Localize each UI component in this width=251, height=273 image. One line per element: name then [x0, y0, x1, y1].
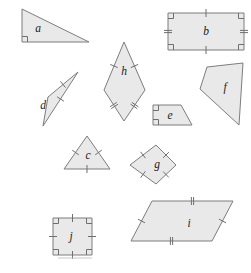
geometry-figure: abcdefghij: [0, 0, 251, 273]
shape-a-outline: [22, 9, 89, 42]
shape-label-e: e: [167, 109, 172, 121]
shape-e: e: [153, 105, 192, 125]
shape-f: f: [200, 63, 243, 125]
shape-label-i: i: [187, 217, 190, 229]
shape-h-outline: [104, 42, 145, 121]
shape-b: b: [164, 9, 248, 54]
shapes-group: abcdefghij: [22, 9, 248, 259]
shape-a: a: [22, 9, 89, 42]
shape-i-outline: [131, 201, 233, 241]
shape-d: d: [40, 72, 78, 126]
shape-h: h: [104, 42, 145, 121]
shape-label-d: d: [40, 99, 46, 111]
shape-label-g: g: [154, 158, 160, 171]
shape-label-b: b: [203, 25, 209, 37]
shape-label-h: h: [121, 65, 127, 77]
shape-g-outline: [130, 145, 176, 184]
shape-j: j: [49, 214, 96, 259]
shape-label-a: a: [35, 22, 41, 34]
shape-f-outline: [200, 63, 243, 125]
shape-g: g: [130, 145, 176, 184]
shape-c: c: [64, 136, 110, 173]
shape-label-c: c: [85, 149, 90, 161]
shape-canvas: abcdefghij: [0, 0, 251, 273]
shape-i: i: [131, 197, 233, 245]
